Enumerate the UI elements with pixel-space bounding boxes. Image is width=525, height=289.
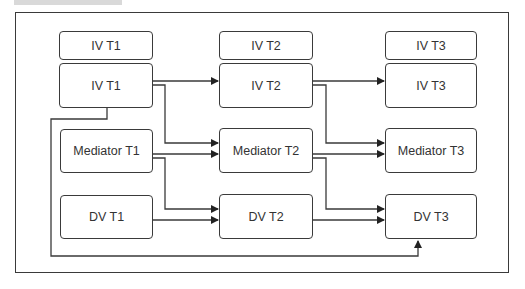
- node-dv-t3: DV T3: [385, 194, 477, 239]
- node-iv-t2: IV T2: [219, 63, 313, 108]
- node-mediator-t3: Mediator T3: [385, 128, 477, 173]
- edge-ivt1-medt2: [153, 85, 218, 143]
- edge-medt2-dvt3: [313, 158, 384, 209]
- header-iv-t1: IV T1: [59, 31, 153, 60]
- edge-ivt2-medt3: [313, 85, 384, 143]
- node-dv-t1: DV T1: [60, 195, 153, 239]
- edge-medt1-dvt2: [153, 158, 218, 209]
- node-iv-t3: IV T3: [385, 63, 477, 108]
- header-iv-t3: IV T3: [385, 31, 477, 60]
- node-mediator-t1: Mediator T1: [60, 129, 153, 173]
- node-dv-t2: DV T2: [219, 194, 313, 239]
- node-mediator-t2: Mediator T2: [219, 128, 313, 173]
- node-iv-t1: IV T1: [59, 63, 153, 108]
- header-iv-t2: IV T2: [219, 31, 313, 60]
